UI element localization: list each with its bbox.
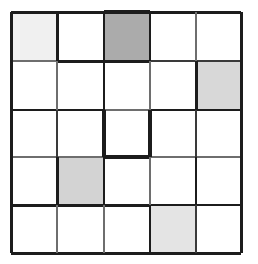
- cell-r4c1: [11, 157, 57, 205]
- figure-stage: [0, 0, 258, 264]
- cell-r4c3: [104, 157, 150, 205]
- cell-r3c5: [196, 110, 241, 157]
- cell-r3c3: [104, 110, 150, 157]
- cell-r1c4: [150, 12, 196, 61]
- cell-r5c2: [57, 205, 104, 253]
- cell-r4c2: [57, 157, 104, 205]
- cell-r1c1: [11, 12, 57, 61]
- cell-r1c2: [57, 12, 104, 61]
- cell-r3c1: [11, 110, 57, 157]
- five-by-five-shaded-grid: [0, 0, 258, 264]
- cell-r5c1: [11, 205, 57, 253]
- cell-r1c3: [104, 12, 150, 61]
- cell-r3c2: [57, 110, 104, 157]
- cell-r4c5: [196, 157, 241, 205]
- cell-r2c1: [11, 61, 57, 110]
- cell-r5c5: [196, 205, 241, 253]
- cell-r2c4: [150, 61, 196, 110]
- cell-r2c5: [196, 61, 241, 110]
- cell-r3c4: [150, 110, 196, 157]
- cell-r5c4: [150, 205, 196, 253]
- cell-r1c5: [196, 12, 241, 61]
- cell-r2c2: [57, 61, 104, 110]
- cell-r4c4: [150, 157, 196, 205]
- cell-r2c3: [104, 61, 150, 110]
- cell-r5c3: [104, 205, 150, 253]
- grid-cells: [11, 12, 241, 253]
